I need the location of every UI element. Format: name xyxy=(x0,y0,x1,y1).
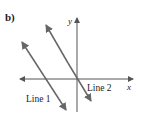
part-label: b) xyxy=(5,11,15,24)
coordinate-diagram: b) x y Line 2 Line 1 xyxy=(0,0,142,118)
line-2-label: Line 2 xyxy=(87,83,112,93)
x-axis-label: x xyxy=(126,82,131,92)
y-axis-label: y xyxy=(67,16,72,26)
line-1-label: Line 1 xyxy=(26,94,51,104)
